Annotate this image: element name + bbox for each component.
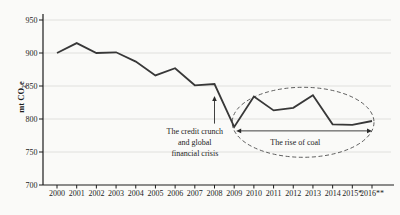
x-tick-label: 2003: [108, 189, 124, 198]
x-axis-ticks: 2000200120022003200420052006200720082009…: [49, 185, 384, 198]
coal-arrow-head-left: [236, 129, 241, 134]
emissions-line-chart: 700750800850900950 200020012002200320042…: [0, 0, 400, 215]
x-tick-label: 2013: [305, 189, 321, 198]
x-tick-label: 2011: [266, 189, 282, 198]
x-tick-label: 2012: [285, 189, 301, 198]
x-tick-label: 2006: [167, 189, 183, 198]
crisis-text-line: and global: [178, 138, 212, 147]
x-tick-label: 2010: [246, 189, 262, 198]
x-tick-label: 2008: [207, 189, 223, 198]
x-tick-label: 2000: [49, 189, 65, 198]
y-tick-label-800: 800: [26, 115, 38, 124]
x-tick-label: 2009: [226, 189, 242, 198]
coal-label: The rise of coal: [270, 138, 321, 147]
y-axis-ticks: 700750800850900950: [26, 16, 44, 190]
chart-figure: 700750800850900950 200020012002200320042…: [0, 0, 400, 215]
crisis-arrow-head: [212, 96, 217, 101]
x-tick-label: 2002: [88, 189, 104, 198]
y-tick-label-950: 950: [26, 16, 38, 25]
y-tick-label-700: 700: [26, 181, 38, 190]
x-tick-label: 2016**: [360, 189, 384, 198]
x-tick-label: 2007: [187, 189, 203, 198]
x-tick-label: 2004: [128, 189, 144, 198]
y-tick-label-750: 750: [26, 148, 38, 157]
crisis-text-line: The credit crunch: [167, 127, 223, 136]
x-tick-label: 2005: [147, 189, 163, 198]
x-tick-label: 2001: [69, 189, 85, 198]
y-tick-label-900: 900: [26, 49, 38, 58]
crisis-text-line: financial crisis: [171, 149, 218, 158]
y-tick-label-850: 850: [26, 82, 38, 91]
y-axis-title: mt CO2e: [16, 81, 27, 113]
x-tick-label: 2014: [325, 189, 341, 198]
rise-of-coal-annotation: The rise of coal: [236, 129, 372, 147]
coal-arrow-head-right: [367, 129, 372, 134]
credit-crunch-annotation: The credit crunchand globalfinancial cri…: [167, 96, 223, 158]
